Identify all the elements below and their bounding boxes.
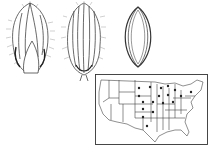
spikelet-front-illustration — [4, 1, 56, 79]
spikelet-back-illustration — [60, 1, 108, 83]
floret-illustration — [117, 6, 159, 68]
distribution-map — [95, 74, 209, 148]
